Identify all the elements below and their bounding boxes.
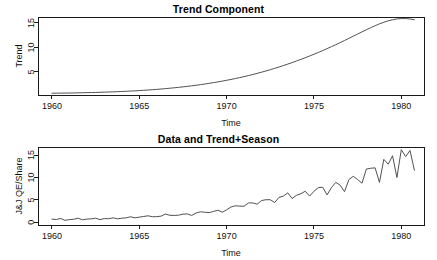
data-tick-labels: 19601965197019751980051015 — [26, 150, 411, 241]
trend-axes — [34, 17, 424, 99]
svg-text:0: 0 — [26, 220, 36, 225]
svg-text:1965: 1965 — [129, 231, 149, 241]
svg-text:1960: 1960 — [42, 231, 62, 241]
svg-text:1975: 1975 — [304, 101, 324, 111]
svg-text:15: 15 — [26, 18, 36, 28]
svg-text:1960: 1960 — [42, 101, 62, 111]
panel-data-trend-season: Data and Trend+Season 196019651970197519… — [0, 128, 437, 260]
svg-text:15: 15 — [26, 150, 36, 160]
trend-tick-labels: 1960196519701975198051015 — [26, 18, 411, 111]
svg-text:5: 5 — [26, 197, 36, 202]
svg-text:1980: 1980 — [391, 101, 411, 111]
trend-series-line — [52, 19, 414, 94]
data-x-axis-title: Time — [221, 248, 241, 258]
svg-text:5: 5 — [26, 69, 36, 74]
svg-text:10: 10 — [26, 42, 36, 52]
trend-x-axis-title: Time — [221, 118, 241, 128]
data-y-axis-title: J&J QE/Share — [14, 157, 24, 214]
svg-text:1965: 1965 — [129, 101, 149, 111]
data-series-line — [52, 150, 414, 221]
trend-plot-canvas: 1960196519701975198051015 Trend Time — [0, 0, 437, 130]
svg-text:1970: 1970 — [217, 101, 237, 111]
trend-y-axis-title: Trend — [14, 44, 24, 67]
svg-text:10: 10 — [26, 172, 36, 182]
svg-text:1980: 1980 — [391, 231, 411, 241]
svg-text:1970: 1970 — [217, 231, 237, 241]
r-plot-figure: Trend Component 196019651970197519805101… — [0, 0, 437, 260]
data-plot-canvas: 19601965197019751980051015 J&J QE/Share … — [0, 128, 437, 260]
panel-trend-component: Trend Component 196019651970197519805101… — [0, 0, 437, 130]
svg-text:1975: 1975 — [304, 231, 324, 241]
data-axes — [34, 147, 424, 229]
